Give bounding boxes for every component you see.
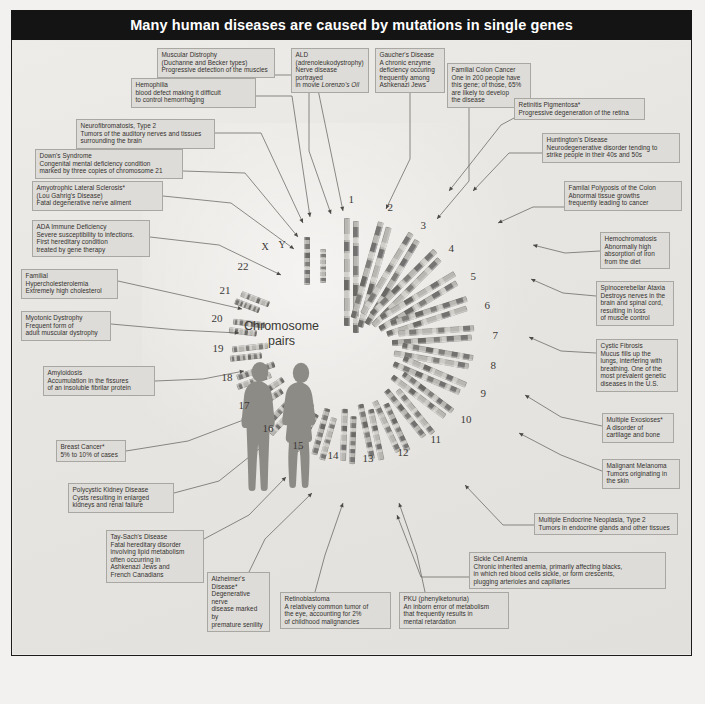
- leader-line-hemochromatosis: [533, 245, 600, 253]
- disease-name: Huntington's Disease: [547, 136, 675, 144]
- disease-desc-line: mental retardation: [404, 618, 504, 626]
- disease-desc-line: in movie Lorenzo's Oil: [296, 81, 364, 89]
- disease-desc-line: resulting in loss: [601, 307, 669, 315]
- disease-desc-line: diseases in the U.S.: [601, 380, 673, 388]
- disease-name: Spinocerebellar Ataxia: [601, 284, 669, 292]
- disease-name: Amyotrophic Lateral Sclerosis*: [37, 184, 158, 192]
- leader-line-downs-syndrome: [183, 171, 298, 237]
- leader-line-men-type-2: [465, 485, 534, 525]
- leader-line-spinocerebellar-ataxia: [531, 279, 596, 296]
- leader-line-neurofibromatosis-type-2: [215, 133, 303, 223]
- leader-line-retinitis-pigmentosa: [449, 118, 514, 191]
- chromosome-number-2: 2: [388, 201, 394, 213]
- disease-desc-line: Abnormal tissue growths: [569, 192, 677, 200]
- disease-label-spinocerebellar-ataxia: Spinocerebellar AtaxiaDestroys nerves in…: [596, 281, 674, 326]
- disease-label-tay-sachs-disease: Tay-Sach's DiseaseFatal hereditary disor…: [106, 530, 204, 583]
- disease-desc-line: most prevalent genetic: [601, 372, 673, 380]
- leader-line-huntingtons-disease: [473, 153, 542, 191]
- leader-line-hemophilia: [256, 96, 310, 217]
- disease-desc-line: in which red blood cells sickle, or form…: [474, 570, 661, 578]
- disease-desc-line: Tumors of the auditory nerves and tissue…: [81, 130, 210, 138]
- disease-desc-line: Cysts resulting in enlarged: [73, 494, 169, 502]
- disease-name: Familial Colon Cancer: [452, 66, 526, 74]
- leader-arrowhead-pku: [398, 503, 402, 508]
- disease-desc-line: Progressive degeneration of the retina: [519, 109, 640, 117]
- disease-desc-line: Abnormally high: [605, 243, 665, 251]
- chromosome-number-16: 16: [263, 422, 274, 434]
- chromosome-number-15: 15: [293, 439, 304, 451]
- disease-name: PKU (phenylketonuria): [404, 595, 504, 603]
- leader-arrowhead-ald: [327, 209, 331, 214]
- human-figures: [227, 361, 337, 491]
- disease-desc-line: Destroys nerves in the: [601, 292, 669, 300]
- chromosome-number-9: 9: [481, 387, 487, 399]
- leader-line-sickle-cell-anemia: [397, 515, 469, 577]
- disease-label-familial-hypercholesterolemia: FamilialHypercholesterolemiaExtremely hi…: [21, 269, 118, 299]
- leader-line-gauchers-disease: [386, 81, 410, 209]
- disease-label-ald: ALD(adrenoleukodystrophy)Nerve disease p…: [291, 48, 369, 93]
- leader-arrowhead-multiple-exostoses: [525, 395, 530, 399]
- disease-name: Gaucher's Disease: [380, 51, 440, 59]
- disease-label-polycystic-kidney-disease: Polycystic Kidney DiseaseCysts resulting…: [68, 483, 174, 513]
- disease-name: Neurofibromatosis, Type 2: [81, 122, 210, 130]
- disease-desc-line: An inborn error of metabolism: [404, 603, 504, 611]
- disease-desc-line: 5% to 10% of cases: [61, 451, 121, 459]
- center-caption-line2: pairs: [212, 334, 352, 349]
- chromosome-number-14: 14: [328, 449, 339, 461]
- disease-desc-line: of childhood malignancies: [285, 618, 386, 626]
- disease-name: Alzheimer's: [212, 575, 265, 583]
- disease-desc-line: the skin: [607, 477, 675, 485]
- chromosome-number-X: X: [262, 241, 269, 252]
- disease-label-men-type-2: Multiple Endocrine Neoplasia, Type 2Tumo…: [534, 513, 678, 535]
- leader-line-pku: [399, 503, 425, 592]
- disease-desc-line: cartilage and bone: [607, 431, 669, 439]
- disease-label-muscular-dystrophy: Muscular Distrophy(Duchanne and Becker t…: [157, 48, 275, 78]
- disease-label-malignant-melanoma: Malignant MelanomaTumors originating int…: [602, 459, 680, 489]
- disease-name: Malignant Melanoma: [607, 462, 675, 470]
- chromosome-number-22: 22: [238, 260, 249, 272]
- disease-desc-line: Frequent form of: [26, 322, 106, 330]
- disease-desc-line: Degenerative nerve: [212, 590, 265, 605]
- female-silhouette: [282, 363, 315, 488]
- chromosome-number-10: 10: [461, 413, 472, 425]
- disease-name: Amyloidosis: [48, 369, 150, 377]
- disease-desc-line: involving lipid metabolism: [111, 548, 199, 556]
- disease-desc-line: frequently among: [380, 74, 440, 82]
- disease-label-hemochromatosis: HemochromatosisAbnormally highabsorption…: [600, 232, 670, 269]
- chromosome-number-11: 11: [431, 433, 442, 445]
- disease-desc-line: A disorder of: [607, 424, 669, 432]
- disease-desc-line: First hereditary condition: [37, 238, 145, 246]
- disease-desc-line: Chronic inherited anemia, primarily affe…: [474, 563, 661, 571]
- disease-name: Down's Syndrome: [40, 152, 178, 160]
- disease-desc-line: disease marked by: [212, 605, 265, 620]
- disease-desc-line: blood defect making it difficult: [136, 89, 251, 97]
- chromosome-number-13: 13: [363, 452, 374, 464]
- disease-name: Cystic Fibrosis: [601, 342, 673, 350]
- disease-desc-line: adult muscular dystrophy: [26, 329, 106, 337]
- disease-name: Retinitis Pigmentosa*: [519, 101, 640, 109]
- disease-label-downs-syndrome: Down's SyndromeCongenital mental deficie…: [35, 149, 183, 179]
- disease-desc-line: Nerve disease portrayed: [296, 66, 364, 81]
- disease-name: Sickle Cell Anemia: [474, 555, 661, 563]
- disease-desc-line: often occurring in: [111, 556, 199, 564]
- disease-label-cystic-fibrosis: Cystic FibrosisMucus fills up thelungs, …: [596, 339, 678, 392]
- center-caption: Chromosome pairs: [212, 319, 352, 349]
- disease-desc-line: A relatively common tumor of: [285, 603, 386, 611]
- disease-label-ada-immune-deficiency: ADA Immune DeficiencySevere susceptibili…: [32, 220, 150, 257]
- leader-line-familial-polyposis: [498, 207, 564, 223]
- disease-desc-line: of an insoluble fibrilar protein: [48, 384, 150, 392]
- disease-desc-line: kidneys and renal failure: [73, 501, 169, 509]
- leader-line-cystic-fibrosis: [529, 337, 596, 353]
- disease-desc-line: Fatal degenerative nerve ailment: [37, 199, 158, 207]
- disease-desc-line: Congenital mental deficiency condition: [40, 160, 178, 168]
- disease-name: Multiple Exosioses*: [607, 416, 669, 424]
- chromosome-number-3: 3: [421, 219, 427, 231]
- disease-desc-line: Tumors originating in: [607, 470, 675, 478]
- disease-label-sickle-cell-anemia: Sickle Cell AnemiaChronic inherited anem…: [469, 552, 666, 589]
- leader-arrowhead-retinitis-pigmentosa: [449, 187, 453, 192]
- disease-label-als: Amyotrophic Lateral Sclerosis*(Lou Gahri…: [32, 181, 163, 211]
- leader-arrowhead-hemochromatosis: [533, 244, 538, 248]
- leader-line-ald: [309, 89, 331, 214]
- disease-desc-line: lungs, interfering with: [601, 357, 673, 365]
- disease-name: ADA Immune Deficiency: [37, 223, 145, 231]
